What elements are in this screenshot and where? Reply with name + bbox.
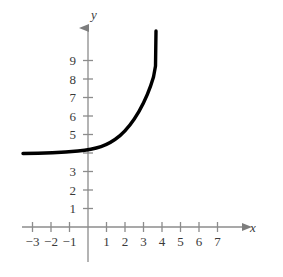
y-tick-label-6: 6 <box>62 110 76 123</box>
y-axis-label: y <box>91 8 97 21</box>
x-tick-label-1: 1 <box>99 235 115 248</box>
x-tick-label-neg1: −1 <box>59 235 81 248</box>
y-tick-label-9: 9 <box>62 54 76 67</box>
x-tick-label-3: 3 <box>136 235 152 248</box>
x-tick-label-5: 5 <box>173 235 189 248</box>
y-tick-label-8: 8 <box>62 73 76 86</box>
y-tick-label-2: 2 <box>62 184 76 197</box>
y-tick-label-3: 3 <box>62 165 76 178</box>
x-tick-label-2: 2 <box>117 235 133 248</box>
x-tick-label-7: 7 <box>210 235 226 248</box>
y-tick-label-1: 1 <box>62 202 76 215</box>
y-tick-label-7: 7 <box>62 91 76 104</box>
x-tick-label-6: 6 <box>191 235 207 248</box>
exponential-function-graph: 9 8 7 6 5 3 2 1 −3 −2 −1 1 2 3 4 5 6 7 y… <box>0 0 283 277</box>
y-tick-label-5: 5 <box>62 128 76 141</box>
x-tick-label-4: 4 <box>154 235 170 248</box>
x-axis-label: x <box>250 221 256 234</box>
